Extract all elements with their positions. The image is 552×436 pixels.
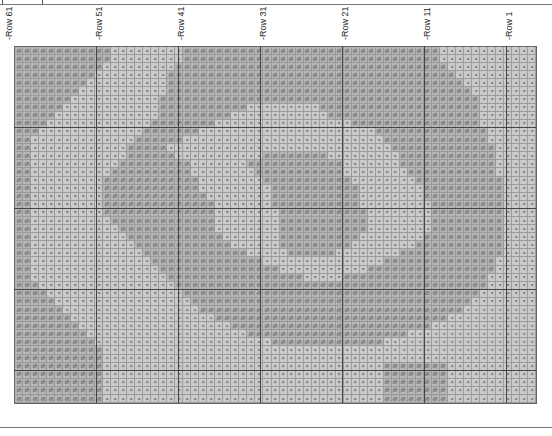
stitch-x-cell: ×	[520, 257, 528, 265]
stitch-s-cell: S	[440, 152, 448, 160]
stitch-s-cell: S	[15, 47, 23, 55]
stitch-s-cell: S	[135, 136, 143, 144]
stitch-x-cell: ×	[320, 371, 328, 379]
stitch-x-cell: ×	[151, 387, 159, 395]
stitch-s-cell: S	[47, 371, 55, 379]
stitch-s-cell: S	[408, 395, 416, 403]
stitch-x-cell: ×	[143, 87, 151, 95]
stitch-x-cell: ×	[520, 314, 528, 322]
stitch-s-cell: S	[448, 257, 456, 265]
stitch-x-cell: ×	[39, 257, 47, 265]
stitch-s-cell: S	[368, 274, 376, 282]
stitch-s-cell: S	[175, 128, 183, 136]
stitch-s-cell: S	[63, 71, 71, 79]
stitch-x-cell: ×	[448, 355, 456, 363]
stitch-s-cell: S	[432, 55, 440, 63]
stitch-s-cell: S	[440, 217, 448, 225]
stitch-x-cell: ×	[296, 346, 304, 354]
stitch-x-cell: ×	[215, 144, 223, 152]
stitch-x-cell: ×	[71, 241, 79, 249]
stitch-s-cell: S	[360, 274, 368, 282]
stitch-s-cell: S	[199, 193, 207, 201]
stitch-s-cell: S	[312, 177, 320, 185]
stitch-x-cell: ×	[167, 55, 175, 63]
stitch-s-cell: S	[432, 112, 440, 120]
stitch-s-cell: S	[55, 87, 63, 95]
stitch-s-cell: S	[304, 168, 312, 176]
stitch-x-cell: ×	[344, 168, 352, 176]
stitch-s-cell: S	[23, 185, 31, 193]
stitch-x-cell: ×	[71, 96, 79, 104]
stitch-x-cell: ×	[191, 144, 199, 152]
stitch-s-cell: S	[448, 266, 456, 274]
stitch-s-cell: S	[223, 249, 231, 257]
stitch-s-cell: S	[320, 160, 328, 168]
stitch-x-cell: ×	[272, 355, 280, 363]
stitch-x-cell: ×	[207, 371, 215, 379]
stitch-x-cell: ×	[71, 168, 79, 176]
stitch-s-cell: S	[47, 79, 55, 87]
stitch-s-cell: S	[151, 136, 159, 144]
stitch-x-cell: ×	[320, 274, 328, 282]
stitch-x-cell: ×	[87, 217, 95, 225]
stitch-s-cell: S	[215, 63, 223, 71]
stitch-x-cell: ×	[79, 322, 87, 330]
stitch-s-cell: S	[296, 185, 304, 193]
stitch-x-cell: ×	[512, 193, 520, 201]
stitch-x-cell: ×	[496, 112, 504, 120]
stitch-x-cell: ×	[432, 346, 440, 354]
stitch-x-cell: ×	[360, 160, 368, 168]
stitch-s-cell: S	[432, 193, 440, 201]
stitch-x-cell: ×	[312, 266, 320, 274]
stitch-s-cell: S	[55, 395, 63, 403]
stitch-x-cell: ×	[528, 63, 536, 71]
stitch-x-cell: ×	[47, 209, 55, 217]
stitch-x-cell: ×	[71, 217, 79, 225]
stitch-x-cell: ×	[47, 249, 55, 257]
stitch-x-cell: ×	[127, 338, 135, 346]
stitch-x-cell: ×	[512, 55, 520, 63]
stitch-x-cell: ×	[103, 290, 111, 298]
stitch-s-cell: S	[183, 209, 191, 217]
stitch-x-cell: ×	[408, 233, 416, 241]
stitch-x-cell: ×	[119, 330, 127, 338]
stitch-x-cell: ×	[231, 168, 239, 176]
stitch-x-cell: ×	[448, 338, 456, 346]
stitch-x-cell: ×	[488, 298, 496, 306]
stitch-s-cell: S	[87, 371, 95, 379]
stitch-x-cell: ×	[456, 47, 464, 55]
stitch-x-cell: ×	[103, 233, 111, 241]
stitch-x-cell: ×	[280, 128, 288, 136]
stitch-x-cell: ×	[496, 71, 504, 79]
stitch-s-cell: S	[480, 241, 488, 249]
stitch-s-cell: S	[408, 371, 416, 379]
stitch-x-cell: ×	[496, 168, 504, 176]
stitch-s-cell: S	[464, 128, 472, 136]
stitch-x-cell: ×	[111, 79, 119, 87]
stitch-x-cell: ×	[111, 249, 119, 257]
stitch-s-cell: S	[175, 185, 183, 193]
stitch-s-cell: S	[328, 249, 336, 257]
stitch-s-cell: S	[55, 371, 63, 379]
stitch-s-cell: S	[183, 79, 191, 87]
stitch-x-cell: ×	[360, 193, 368, 201]
stitch-x-cell: ×	[191, 387, 199, 395]
stitch-s-cell: S	[440, 266, 448, 274]
stitch-s-cell: S	[39, 346, 47, 354]
stitch-x-cell: ×	[376, 193, 384, 201]
stitch-x-cell: ×	[159, 47, 167, 55]
stitch-x-cell: ×	[207, 330, 215, 338]
stitch-s-cell: S	[263, 63, 271, 71]
stitch-s-cell: S	[296, 160, 304, 168]
stitch-x-cell: ×	[384, 355, 392, 363]
stitch-x-cell: ×	[191, 371, 199, 379]
stitch-x-cell: ×	[520, 266, 528, 274]
stitch-x-cell: ×	[528, 136, 536, 144]
stitch-s-cell: S	[263, 79, 271, 87]
stitch-s-cell: S	[416, 387, 424, 395]
stitch-x-cell: ×	[296, 395, 304, 403]
stitch-x-cell: ×	[239, 379, 247, 387]
stitch-s-cell: S	[47, 306, 55, 314]
stitch-x-cell: ×	[520, 209, 528, 217]
stitch-s-cell: S	[119, 177, 127, 185]
